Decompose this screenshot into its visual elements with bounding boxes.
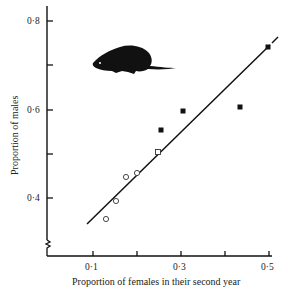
series-open-square — [156, 150, 161, 155]
scatter-chart: 0·8 0·6 0·4 Proportion of males 0·1 0·3 … — [0, 0, 288, 289]
y-axis: 0·8 0·6 0·4 Proportion of males — [9, 6, 53, 256]
y-tick-label: 0·6 — [27, 105, 40, 115]
x-axis-title: Proportion of females in their second ye… — [72, 276, 241, 287]
data-point — [238, 105, 243, 110]
data-point — [113, 198, 118, 203]
data-point — [134, 170, 139, 175]
data-point — [156, 150, 161, 155]
x-tick-label: 0·3 — [173, 262, 186, 272]
data-point — [123, 174, 128, 179]
y-axis-title: Proportion of males — [9, 95, 20, 175]
shrew-silhouette-icon — [93, 46, 176, 74]
series-filled-squares — [159, 45, 271, 133]
y-tick-label: 0·4 — [27, 193, 40, 203]
x-tick-label: 0·1 — [85, 262, 98, 272]
y-tick-label: 0·8 — [27, 16, 40, 26]
x-axis: 0·1 0·3 0·5 Proportion of females in the… — [47, 251, 274, 287]
data-point — [266, 45, 271, 50]
x-tick-label: 0·5 — [261, 262, 274, 272]
data-point — [159, 128, 164, 133]
data-point — [181, 109, 186, 114]
axis-break-icon — [46, 240, 50, 256]
data-point — [103, 216, 108, 221]
